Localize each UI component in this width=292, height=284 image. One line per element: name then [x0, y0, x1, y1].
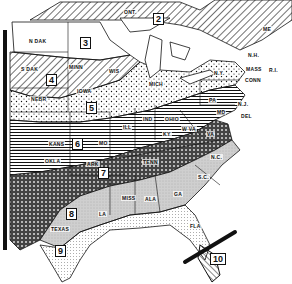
- state-label: CONN: [244, 77, 262, 83]
- state-label: TEXAS: [50, 226, 70, 232]
- state-label: S.C.: [197, 174, 210, 180]
- zone-label: 2: [153, 13, 164, 25]
- state-label: VA: [206, 131, 215, 137]
- state-label: MO: [98, 140, 109, 146]
- zone-label: 9: [55, 245, 66, 257]
- state-label: PA: [208, 97, 217, 103]
- state-label: S DAK: [20, 66, 39, 72]
- state-label: MINN: [68, 64, 84, 70]
- state-label: ILL: [122, 124, 132, 130]
- state-label: OKLA: [44, 158, 61, 164]
- zone-label: 4: [46, 74, 57, 86]
- state-label: R.I.: [268, 67, 279, 73]
- zone-label: 8: [66, 208, 77, 220]
- state-label: FLA: [189, 223, 202, 229]
- state-label: OHIO: [164, 116, 180, 122]
- state-label: IOWA: [76, 88, 93, 94]
- state-label: NEBR: [30, 96, 47, 102]
- zone-label: 5: [86, 102, 97, 114]
- state-label: N.C.: [210, 154, 223, 160]
- state-label: TENN: [142, 159, 159, 165]
- state-label: ONT.: [123, 9, 138, 15]
- state-label: IND: [142, 116, 154, 122]
- state-label: MD: [216, 109, 226, 115]
- zone-label: 7: [98, 167, 109, 179]
- state-label: ME: [262, 26, 272, 32]
- state-label: W VA: [181, 126, 197, 132]
- state-label: MASS: [245, 66, 263, 72]
- state-label: MISS: [121, 195, 136, 201]
- state-label: N DAK: [28, 38, 47, 44]
- state-label: DEL: [240, 113, 253, 119]
- zone-label: 6: [72, 138, 83, 150]
- zone-label: 10: [210, 253, 226, 265]
- state-label: ALA: [144, 196, 157, 202]
- state-label: MICH: [148, 81, 164, 87]
- state-label: N.H.: [247, 52, 260, 58]
- state-label: N.Y.: [213, 70, 225, 76]
- state-label: N.J.: [237, 101, 249, 107]
- state-label: WIS: [108, 68, 120, 74]
- hardiness-zone-map: 2345678910 N DAKS DAKNEBRKANSOKLATEXASMI…: [0, 0, 292, 284]
- state-label: LA: [98, 211, 107, 217]
- state-label: KANS: [48, 141, 65, 147]
- state-label: KY: [162, 131, 172, 137]
- state-label: GA: [173, 191, 183, 197]
- zone-label: 3: [80, 37, 91, 49]
- state-label: ARK: [86, 161, 100, 167]
